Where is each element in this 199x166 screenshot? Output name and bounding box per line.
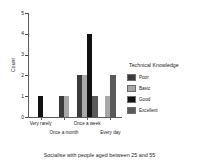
y-tick-label: 4 — [11, 31, 24, 36]
bar-chart: Count 012345 Very rarelyOnce a monthOnce… — [0, 0, 199, 166]
y-tick-label: 0 — [11, 115, 24, 120]
chart-footer-title: Socialise with people aged between 25 an… — [0, 152, 199, 158]
y-tick-label: 5 — [11, 11, 24, 16]
x-tick-mark — [87, 117, 88, 120]
legend-label: Poor — [139, 75, 149, 80]
legend-items: PoorBasicGoodExcellent — [127, 72, 197, 116]
y-tick-label: 1 — [11, 94, 24, 99]
x-tick-label: Every day — [88, 130, 132, 136]
x-tick-label: Once a month — [42, 130, 86, 136]
x-tick-mark — [110, 117, 111, 120]
x-tick-mark — [41, 117, 42, 120]
legend-item-poor: Poor — [127, 72, 197, 83]
legend-swatch-poor — [127, 74, 136, 81]
legend-swatch-excellent — [127, 107, 136, 114]
bar-good-very-rarely — [38, 96, 43, 117]
x-tick-mark — [64, 117, 65, 120]
legend-item-basic: Basic — [127, 83, 197, 94]
legend-item-good: Good — [127, 94, 197, 105]
x-tick-label: Once a week — [65, 121, 109, 127]
legend-swatch-basic — [127, 85, 136, 92]
legend-title: Technical Knowledge — [129, 62, 197, 68]
bar-basic-once-a-month — [64, 96, 69, 117]
x-tick-label: Very rarely — [19, 121, 63, 127]
y-tick-label: 3 — [11, 52, 24, 57]
x-axis-line — [28, 117, 122, 118]
legend-label: Good — [139, 97, 150, 102]
plot-area — [29, 13, 122, 117]
bar-excellent-once-a-week — [92, 96, 97, 117]
y-axis-label: Count — [10, 43, 16, 87]
bar-excellent-every-day — [110, 75, 115, 117]
legend-swatch-good — [127, 96, 136, 103]
legend-label: Basic — [139, 86, 150, 91]
legend-item-excellent: Excellent — [127, 105, 197, 116]
legend: Technical Knowledge PoorBasicGoodExcelle… — [127, 62, 197, 116]
legend-label: Excellent — [139, 108, 158, 113]
y-tick-label: 2 — [11, 73, 24, 78]
